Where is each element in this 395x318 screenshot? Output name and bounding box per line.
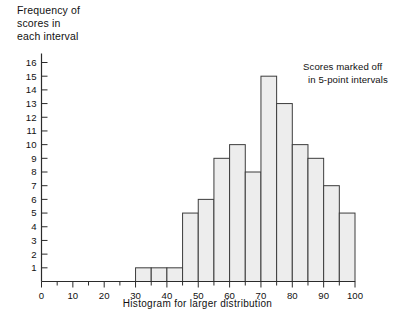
histogram-bars <box>136 76 355 281</box>
y-axis-tick-label: 8 <box>31 166 36 177</box>
histogram-bar <box>292 145 308 282</box>
histogram-plot: 0102030405060708090100 12345678910111213… <box>0 0 395 318</box>
histogram-bar <box>230 145 246 282</box>
y-axis-tick-label: 5 <box>31 207 36 218</box>
histogram-bar <box>198 199 214 281</box>
histogram-bar <box>136 268 152 282</box>
histogram-bar <box>183 213 199 281</box>
y-axis-tick-label: 11 <box>27 125 37 136</box>
y-axis-tick-label: 2 <box>31 249 36 260</box>
x-axis-title: Histogram for larger distribution <box>0 298 395 309</box>
histogram-bar <box>261 76 277 281</box>
histogram-bar <box>277 104 293 282</box>
y-axis-tick-label: 7 <box>31 180 36 191</box>
y-axis-tick-label: 4 <box>31 221 37 232</box>
histogram-figure: Frequency of scores in each interval Sco… <box>0 0 395 318</box>
y-axis-tick-label: 6 <box>31 194 36 205</box>
histogram-bar <box>167 268 183 282</box>
y-axis-tick-label: 9 <box>31 153 36 164</box>
y-axis-ticks <box>42 63 48 268</box>
y-axis-tick-labels: 12345678910111213141516 <box>26 57 37 273</box>
y-axis-tick-label: 14 <box>26 84 37 95</box>
y-axis-tick-label: 12 <box>26 112 37 123</box>
y-axis-tick-label: 1 <box>31 262 36 273</box>
histogram-bar <box>151 268 167 282</box>
histogram-bar <box>308 158 324 281</box>
y-axis-tick-label: 3 <box>31 235 36 246</box>
y-axis-tick-label: 10 <box>26 139 37 150</box>
y-axis-tick-label: 16 <box>26 57 37 68</box>
y-axis-tick-label: 13 <box>26 98 37 109</box>
x-axis-ticks <box>42 282 356 288</box>
histogram-bar <box>245 172 261 282</box>
y-axis-tick-label: 15 <box>26 71 37 82</box>
histogram-bar <box>324 186 340 282</box>
histogram-bar <box>339 213 355 281</box>
histogram-bar <box>214 158 230 281</box>
